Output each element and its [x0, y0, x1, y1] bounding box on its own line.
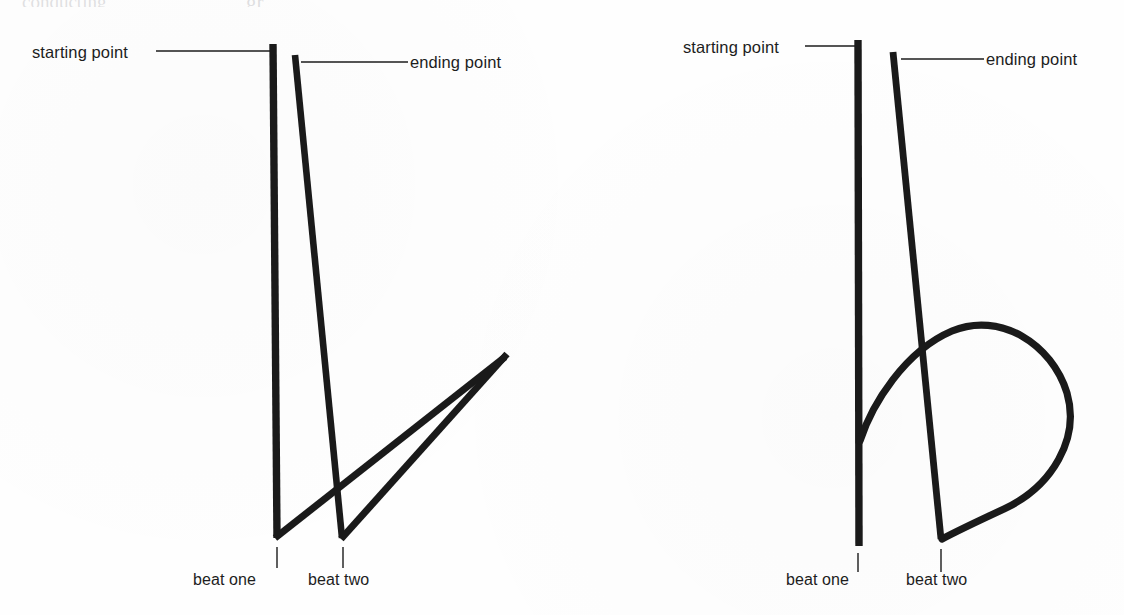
label-starting-point-left: starting point — [32, 44, 128, 61]
label-ending-point-left: ending point — [410, 54, 501, 71]
label-ending-point-right: ending point — [986, 51, 1077, 68]
stroke-rebound-diagonal-two-left — [341, 354, 507, 539]
label-beat-one-left: beat one — [193, 572, 256, 588]
stroke-loop-arc-right — [860, 325, 1070, 539]
label-beat-one-right: beat one — [786, 572, 849, 588]
label-starting-point-right: starting point — [683, 39, 779, 56]
right-pattern-svg — [600, 0, 1124, 615]
stroke-downstroke-beat-two-left — [295, 55, 342, 538]
label-beat-two-right: beat two — [906, 572, 967, 588]
label-beat-two-left: beat two — [308, 572, 369, 588]
stroke-rebound-diagonal-one-left — [275, 357, 505, 538]
left-pattern-svg — [0, 0, 600, 615]
stroke-downstroke-beat-two-right — [893, 52, 941, 539]
stroke-downstroke-beat-one-left — [273, 44, 277, 538]
figure-right-looped-pattern: starting point ending point beat one bea… — [600, 0, 1124, 615]
stroke-downstroke-beat-one-right — [858, 40, 859, 546]
diagram-page: conducting gr starting point ending poin… — [0, 0, 1124, 615]
figure-left-angular-pattern: starting point ending point beat one bea… — [0, 0, 600, 615]
